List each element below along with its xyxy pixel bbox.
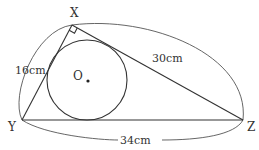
side-length-yz: 34cm [120, 134, 151, 147]
vertex-label-y: Y [7, 120, 17, 134]
vertex-label-z: Z [247, 120, 255, 134]
center-label: O [73, 69, 83, 83]
vertex-label-x: X [70, 6, 79, 20]
dimension-arc-yz-right [162, 120, 243, 140]
center-point [86, 79, 89, 82]
triangle-incircle-diagram: X Y Z O 16cm 30cm 34cm [0, 0, 259, 150]
side-length-xz: 30cm [152, 52, 183, 65]
dimension-arc-yz-left [22, 120, 118, 140]
side-xz [72, 25, 243, 120]
side-length-xy: 16cm [15, 64, 46, 77]
